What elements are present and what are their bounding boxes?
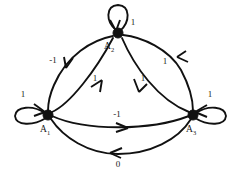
node-a2-dot[interactable] bbox=[113, 28, 123, 38]
node-a1-dot[interactable] bbox=[43, 110, 53, 120]
node-a2-label: A2 bbox=[104, 41, 114, 53]
edge-a1-to-a2-label: 1 bbox=[93, 73, 98, 83]
self-loop-a1 bbox=[15, 104, 46, 124]
self-loop-a3 bbox=[195, 105, 226, 124]
node-a3-dot[interactable] bbox=[188, 110, 198, 120]
edge-a3-to-a2-arrowhead bbox=[177, 51, 188, 62]
edge-a3-to-a2 bbox=[123, 35, 193, 111]
edge-a3-to-a1-arrowhead bbox=[110, 148, 122, 158]
self-loop-a3-label: 1 bbox=[208, 89, 213, 99]
edge-a2-to-a1-label: -1 bbox=[49, 55, 57, 65]
edge-a3-to-a1-label: 0 bbox=[116, 159, 121, 169]
node-a3-label: A3 bbox=[186, 124, 196, 136]
self-loop-a1-label: 1 bbox=[21, 89, 26, 99]
self-loop-a2-label: 1 bbox=[131, 17, 136, 27]
edge-a3-to-a2-path bbox=[123, 35, 193, 111]
edge-a2-to-a3 bbox=[122, 38, 189, 112]
self-loop-a2 bbox=[108, 5, 127, 31]
node-a1-label: A1 bbox=[40, 124, 50, 136]
edge-a1-to-a3-label: -1 bbox=[113, 109, 121, 119]
edge-a2-to-a3-label: 1 bbox=[141, 73, 146, 83]
edge-a3-to-a2-label: 1 bbox=[163, 56, 168, 66]
edge-a2-to-a3-path bbox=[122, 38, 189, 112]
directed-graph-diagram: A1 A2 A3 1 1 1 -1 1 1 1 -1 0 bbox=[0, 0, 239, 174]
